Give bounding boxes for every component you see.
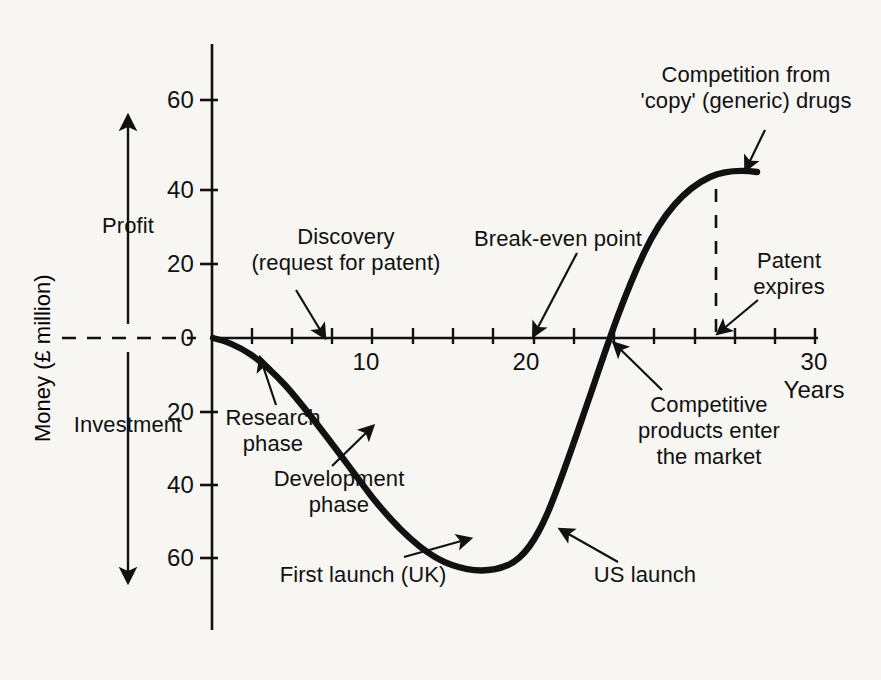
y-tick-label-40-positive: 40	[146, 176, 194, 204]
y-tick-label-60-positive: 60	[146, 86, 194, 114]
y-tick-label-60-negative: 60	[146, 544, 194, 572]
y-tick-label-zero: 0	[146, 324, 194, 352]
annotation-first-launch-uk: First launch (UK)	[258, 562, 468, 588]
y-axis-ticks	[200, 100, 218, 558]
y-tick-label-20-positive: 20	[146, 250, 194, 278]
annotation-break-even-point: Break-even point	[452, 226, 664, 252]
annotation-us-launch: US launch	[578, 562, 712, 588]
annotation-discovery: Discovery (request for patent)	[224, 224, 468, 276]
figure-container: 60 40 20 0 20 40 60 10 20 30 Money (£ mi…	[0, 0, 881, 680]
annotation-research-phase: Research phase	[206, 405, 340, 457]
investment-direction-label: Investment	[50, 412, 206, 438]
annotation-development-phase: Development phase	[246, 466, 432, 518]
x-axis-ticks	[252, 328, 815, 344]
x-tick-label-10: 10	[338, 348, 394, 376]
annotation-competition-generic-drugs: Competition from 'copy' (generic) drugs	[612, 62, 880, 114]
x-tick-label-30: 30	[786, 348, 842, 376]
profit-direction-label: Profit	[68, 213, 188, 239]
annotation-patent-expires: Patent expires	[728, 248, 850, 300]
x-tick-label-20: 20	[498, 348, 554, 376]
y-tick-label-40-negative: 40	[146, 471, 194, 499]
annotation-competitive-products: Competitive products enter the market	[612, 392, 806, 470]
